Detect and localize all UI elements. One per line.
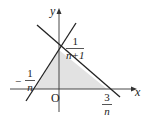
left-x-intercept-sign: −: [15, 75, 21, 87]
right-x-intercept-label: 3 n: [102, 92, 112, 117]
y-intercept-denominator: n+1: [66, 50, 84, 61]
right-x-intercept-numerator: 3: [104, 92, 110, 103]
y-axis-arrow-icon: [57, 8, 62, 14]
origin-label: O: [51, 92, 60, 104]
left-x-intercept-label: 1 n: [25, 68, 35, 93]
y-intercept-label: 1 n+1: [66, 36, 84, 61]
y-intercept-numerator: 1: [72, 36, 78, 47]
left-x-intercept-denominator: n: [27, 82, 33, 93]
x-axis-label: x: [135, 86, 140, 98]
left-x-intercept-numerator: 1: [27, 68, 33, 79]
y-axis-label: y: [50, 5, 55, 17]
right-x-intercept-denominator: n: [104, 106, 110, 117]
